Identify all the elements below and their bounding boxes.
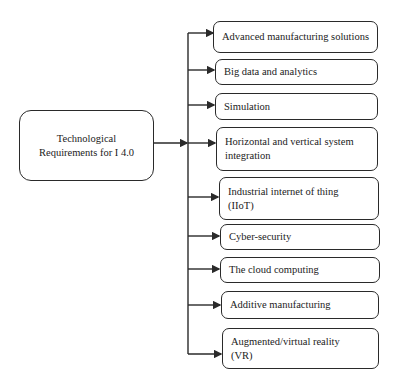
node-big-data: Big data and analytics <box>215 59 378 85</box>
node-label-line1: Augmented/virtual reality <box>231 335 340 349</box>
node-simulation: Simulation <box>215 93 378 120</box>
node-horizontal-vertical-integration: Horizontal and vertical system integrati… <box>216 127 378 171</box>
node-label: Additive manufacturing <box>230 298 331 312</box>
node-iiot: Industrial internet of thing (IIoT) <box>219 177 379 220</box>
node-label: Cyber-security <box>229 230 291 244</box>
node-label-line2: (VR) <box>231 349 340 363</box>
root-label-line2: Requirements for I 4.0 <box>39 146 134 160</box>
node-label-line2: (IIoT) <box>228 199 339 213</box>
node-augmented-virtual-reality: Augmented/virtual reality (VR) <box>222 328 379 369</box>
root-node: Technological Requirements for I 4.0 <box>19 110 154 181</box>
node-label: Big data and analytics <box>224 65 317 79</box>
node-label-line1: Industrial internet of thing <box>228 185 339 199</box>
node-cloud-computing: The cloud computing <box>220 257 380 283</box>
node-additive-manufacturing: Additive manufacturing <box>221 291 379 319</box>
node-label: The cloud computing <box>229 263 319 277</box>
node-cyber-security: Cyber-security <box>220 224 380 250</box>
node-label: Advanced manufacturing solutions <box>222 30 369 44</box>
node-label: Simulation <box>224 100 270 114</box>
node-label-line1: Horizontal and vertical system <box>225 135 354 149</box>
node-advanced-manufacturing: Advanced manufacturing solutions <box>213 21 378 53</box>
node-label-line2: integration <box>225 149 354 163</box>
root-label-line1: Technological <box>39 132 134 146</box>
